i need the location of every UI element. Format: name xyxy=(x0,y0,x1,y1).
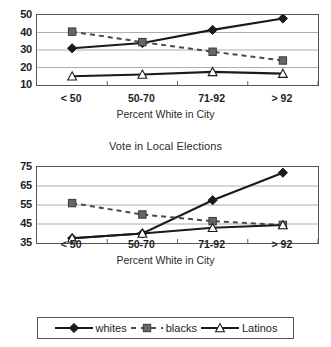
chart-bottom-title: Vote in Local Elections xyxy=(0,140,331,152)
y-tick-label: 50 xyxy=(20,8,32,20)
chart-top: 1020304050 < 5050-7071-92> 92 Percent Wh… xyxy=(0,0,331,86)
chart-bottom-x-axis-title: Percent White in City xyxy=(0,254,331,266)
chart-top-plot xyxy=(36,14,319,86)
y-tick-label: 40 xyxy=(20,26,32,38)
chart-legend: whitesblacksLatinos xyxy=(37,317,294,339)
y-tick-label: 75 xyxy=(20,160,32,172)
legend-entry: blacks xyxy=(130,321,197,335)
chart-bottom-x-axis-labels: < 5050-7071-92> 92 xyxy=(36,238,319,254)
x-tick-label: < 50 xyxy=(61,92,82,104)
y-tick-label: 45 xyxy=(20,217,32,229)
legend-marker-filled-square xyxy=(130,321,164,335)
y-tick-label: 20 xyxy=(20,61,32,73)
legend-entry: Latinos xyxy=(200,321,277,335)
chart-top-x-axis-labels: < 5050-7071-92> 92 xyxy=(36,92,319,108)
legend-label: whites xyxy=(96,322,127,334)
x-tick-label: 50-70 xyxy=(128,238,155,250)
legend-marker-filled-diamond xyxy=(54,321,94,335)
chart-bottom-plot xyxy=(36,166,319,244)
x-tick-label: 71-92 xyxy=(198,238,225,250)
chart-bottom: Vote in Local Elections 3545556575 < 505… xyxy=(0,140,331,244)
legend-marker-open-triangle xyxy=(200,321,240,335)
legend-entry: whites xyxy=(54,321,127,335)
chart-bottom-y-axis-labels: 3545556575 xyxy=(0,166,34,244)
y-tick-label: 55 xyxy=(20,198,32,210)
y-tick-label: 65 xyxy=(20,179,32,191)
x-tick-label: > 92 xyxy=(272,238,293,250)
chart-bottom-plot-area: 3545556575 xyxy=(0,166,331,244)
x-tick-label: > 92 xyxy=(272,92,293,104)
y-tick-label: 10 xyxy=(20,78,32,90)
chart-top-plot-area: 1020304050 xyxy=(0,14,331,86)
legend-label: blacks xyxy=(166,322,197,334)
x-tick-label: 71-92 xyxy=(198,92,225,104)
chart-top-x-axis-title: Percent White in City xyxy=(0,108,331,120)
chart-top-y-axis-labels: 1020304050 xyxy=(0,14,34,86)
x-tick-label: 50-70 xyxy=(128,92,155,104)
y-tick-label: 35 xyxy=(20,236,32,248)
chart-page: 1020304050 < 5050-7071-92> 92 Percent Wh… xyxy=(0,0,331,347)
y-tick-label: 30 xyxy=(20,43,32,55)
legend-label: Latinos xyxy=(242,322,277,334)
x-tick-label: < 50 xyxy=(61,238,82,250)
